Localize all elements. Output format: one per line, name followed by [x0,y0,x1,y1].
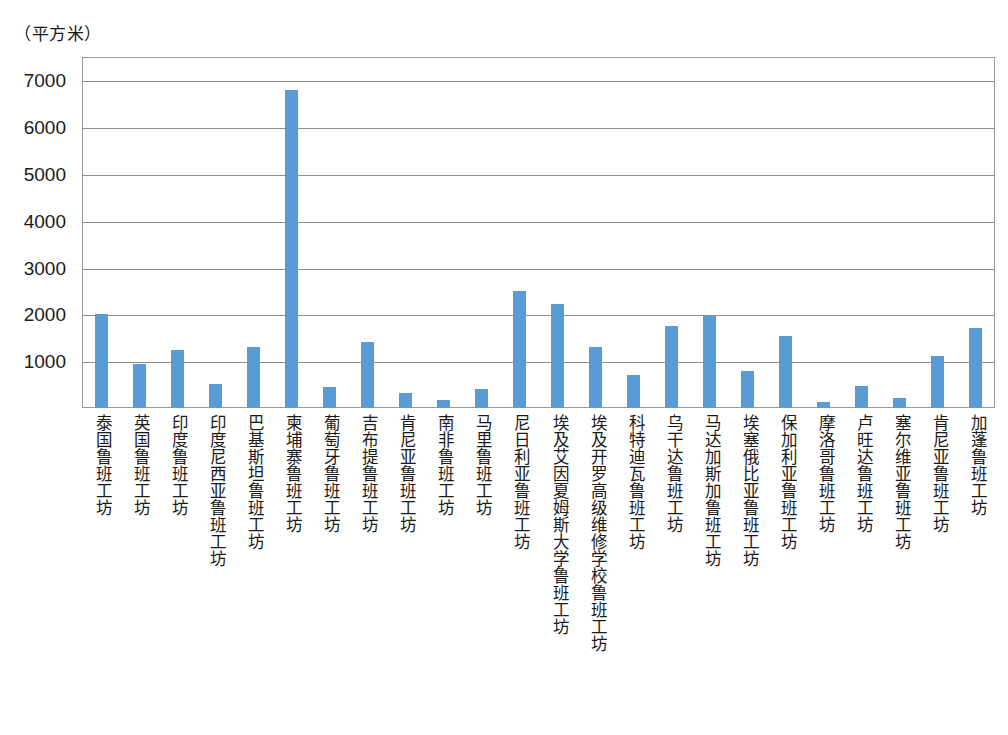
category-label: 英国鲁班工坊 [128,414,150,516]
category-label: 南非鲁班工坊 [432,414,454,516]
category-label: 埃塞俄比亚鲁班工坊 [737,414,759,567]
category-label: 柬埔寨鲁班工坊 [280,414,302,533]
gridline-5000 [83,175,994,176]
scan-bleed-artifact [330,686,690,716]
category-label: 印度尼西亚鲁班工坊 [204,414,226,567]
category-label: 摩洛哥鲁班工坊 [813,414,835,533]
plot-area [82,57,995,408]
category-label: 泰国鲁班工坊 [90,414,112,516]
gridline-6000 [83,128,994,129]
gridline-1000 [83,362,994,363]
y-tick-label: 1000 [0,352,74,371]
category-label: 肯尼亚鲁班工坊 [927,414,949,533]
bar-chart-figure: （平方米） 1000200030004000500060007000 泰国鲁班工… [0,0,1008,735]
category-label: 尼日利亚鲁班工坊 [508,414,530,550]
category-label: 保加利亚鲁班工坊 [775,414,797,550]
category-label: 马里鲁班工坊 [470,414,492,516]
category-label: 卢旺达鲁班工坊 [851,414,873,533]
y-axis-unit-label: （平方米） [14,20,102,45]
category-label: 埃及开罗高级维修学校鲁班工坊 [585,414,607,652]
category-label: 科特迪瓦鲁班工坊 [623,414,645,550]
category-label: 印度鲁班工坊 [166,414,188,516]
gridline-4000 [83,222,994,223]
y-tick-label: 2000 [0,305,74,324]
category-label: 塞尔维亚鲁班工坊 [889,414,911,550]
y-tick-label: 5000 [0,165,74,184]
y-tick-label: 7000 [0,71,74,90]
x-axis-category-labels: 泰国鲁班工坊英国鲁班工坊印度鲁班工坊印度尼西亚鲁班工坊巴基斯坦鲁班工坊柬埔寨鲁班… [82,414,995,714]
gridline-7000 [83,81,994,82]
category-label: 巴基斯坦鲁班工坊 [242,414,264,550]
category-label: 马达加斯加鲁班工坊 [699,414,721,567]
y-tick-label: 3000 [0,258,74,277]
category-label: 肯尼亚鲁班工坊 [394,414,416,533]
gridline-3000 [83,269,994,270]
category-label: 乌干达鲁班工坊 [661,414,683,533]
y-tick-label: 6000 [0,118,74,137]
category-label: 吉布提鲁班工坊 [356,414,378,533]
gridline-2000 [83,315,994,316]
category-label: 葡萄牙鲁班工坊 [318,414,340,533]
category-label: 埃及艾因夏姆斯大学鲁班工坊 [547,414,569,635]
y-tick-label: 4000 [0,211,74,230]
category-label: 加蓬鲁班工坊 [965,414,987,516]
y-axis-tick-labels: 1000200030004000500060007000 [0,57,74,408]
